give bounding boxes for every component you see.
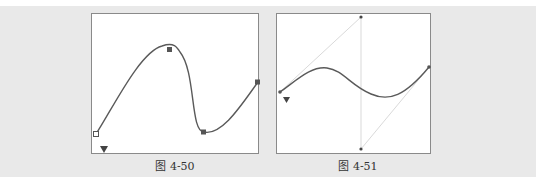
smooth-curve-diagram: [277, 14, 432, 155]
anchor-point-start[interactable]: [94, 132, 99, 137]
bezier-path-diagram: [92, 14, 260, 155]
canvas-frame-4-51: [276, 13, 431, 154]
start-marker-triangle-icon: [283, 97, 290, 103]
anchor-point-end[interactable]: [255, 80, 260, 85]
anchor-point[interactable]: [167, 47, 172, 52]
figure-caption: 图 4-50: [150, 157, 200, 173]
canvas-frame-4-50: [91, 13, 259, 154]
figure-caption: 图 4-51: [333, 157, 383, 173]
anchor-point[interactable]: [201, 130, 206, 135]
anchor-point-start[interactable]: [278, 90, 282, 94]
start-marker-triangle-icon: [100, 146, 108, 153]
anchor-point-end[interactable]: [427, 65, 431, 69]
figure-band: [0, 6, 536, 177]
control-handle-point[interactable]: [359, 147, 362, 150]
bezier-curve: [96, 45, 258, 134]
control-handle-line: [280, 17, 361, 92]
control-handle-point[interactable]: [359, 15, 362, 18]
